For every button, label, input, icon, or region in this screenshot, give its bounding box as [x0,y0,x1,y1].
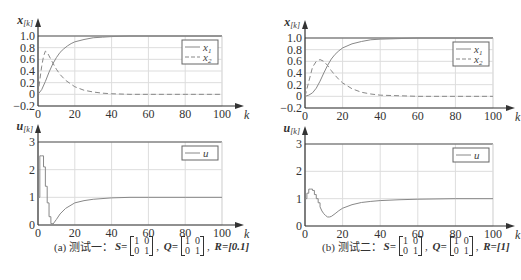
x-axis-label: k [244,108,250,122]
matrix-q-b: 1 0 0 1 [450,236,473,256]
y-axis-label: u[k] [17,119,33,134]
y-tick-label: 2 [29,163,35,177]
y-tick-label: 3 [296,137,302,151]
y-axis-arrow-icon [302,126,308,135]
x-tick-label: 100 [213,107,231,121]
y-axis-arrow-icon [35,124,41,133]
x-tick-label: 20 [69,107,81,121]
matrix-s-b: 1 0 0 1 [399,236,422,256]
y-tick-label: 1.0 [287,31,302,45]
caption-b: (b) 测试二： S= 1 0 0 1 , Q= 1 0 0 1 , R=[1] [322,236,510,256]
x-axis-arrow-icon [506,223,515,229]
x-tick-label: 80 [179,107,191,121]
y-tick-label: 1.0 [20,29,35,43]
chart-a-bottom: 0204060801000123ku[k]u [17,119,250,241]
caption-a-r: R=[0.1] [215,240,250,252]
legend-label: u [203,147,209,159]
caption-a-prefix: (a) 测试一： [54,238,113,254]
y-axis-label: u[k] [284,121,300,136]
x-tick-label: 0 [302,109,308,123]
y-axis-label: x[k] [283,15,300,30]
x-tick-label: 40 [374,109,386,123]
y-axis-arrow-icon [302,20,308,29]
x-axis-label: k [515,110,521,124]
chart-a-top: 020406080100−0.200.20.40.60.81.0kx[k]x1x… [13,13,250,122]
chart-b-top: 020406080100−0.200.20.40.60.81.0kx[k]x1x… [280,15,521,124]
x-tick-label: 20 [337,109,349,123]
caption-b-s-label: S= [384,240,396,252]
caption-a: (a) 测试一： S= 1 0 0 1 , Q= 1 0 0 1 , R=[0.… [54,236,249,256]
y-tick-label: 0 [29,218,35,232]
y-tick-label: 0 [296,219,302,233]
y-tick-label: 1 [29,190,35,204]
y-tick-label: 1 [296,192,302,206]
legend [182,40,218,64]
x-axis-arrow-icon [235,222,244,228]
caption-a-q-label: Q= [164,240,178,252]
x-tick-label: 60 [412,109,424,123]
y-axis-arrow-icon [35,18,41,27]
legend-label: u [474,149,480,161]
x-tick-label: 0 [35,107,41,121]
caption-a-s-label: S= [115,240,127,252]
y-axis-label: x[k] [16,13,33,28]
x-axis-arrow-icon [506,105,515,111]
caption-b-q-label: Q= [432,240,446,252]
series-u [305,189,493,217]
x-tick-label: 40 [106,107,118,121]
caption-b-prefix: (b) 测试二： [322,238,382,254]
y-tick-label: 2 [296,164,302,178]
matrix-q-a: 1 0 0 1 [181,236,204,256]
x-tick-label: 60 [142,107,154,121]
legend [453,42,489,66]
x-tick-label: 0 [302,227,308,241]
y-tick-label: 3 [29,135,35,149]
x-tick-label: 100 [484,109,502,123]
x-tick-label: 80 [449,109,461,123]
series-u [38,156,222,225]
x-axis-label: k [515,228,521,242]
matrix-s-a: 1 0 0 1 [130,236,153,256]
x-tick-label: 0 [35,226,41,240]
x-axis-arrow-icon [235,103,244,109]
chart-b-bottom: 0204060801000123ku[k]u [284,121,521,242]
caption-b-r: R=[1] [483,240,509,252]
